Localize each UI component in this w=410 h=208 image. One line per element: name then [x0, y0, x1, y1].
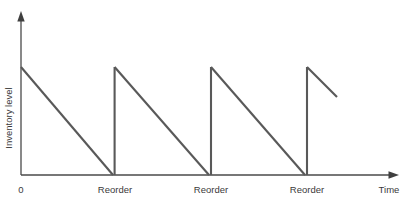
depletion-segment-2 — [115, 67, 209, 175]
x-axis-origin-label: 0 — [18, 184, 23, 195]
chart-canvas: 0 Reorder Reorder Reorder Time Inventory… — [0, 0, 410, 208]
x-axis-reorder-label-3: Reorder — [290, 184, 324, 195]
x-axis-arrow-icon — [389, 171, 400, 178]
x-axis-reorder-label-2: Reorder — [194, 184, 228, 195]
inventory-level-series — [21, 67, 337, 175]
x-axis-reorder-label-1: Reorder — [98, 184, 132, 195]
depletion-segment-1 — [21, 67, 113, 175]
inventory-sawtooth-chart: 0 Reorder Reorder Reorder Time Inventory… — [0, 0, 410, 208]
y-axis-title: Inventory level — [3, 87, 14, 148]
x-axis-title: Time — [379, 184, 400, 195]
y-axis-arrow-icon — [17, 11, 24, 22]
depletion-segment-4-partial — [307, 67, 337, 97]
depletion-segment-3 — [211, 67, 305, 175]
